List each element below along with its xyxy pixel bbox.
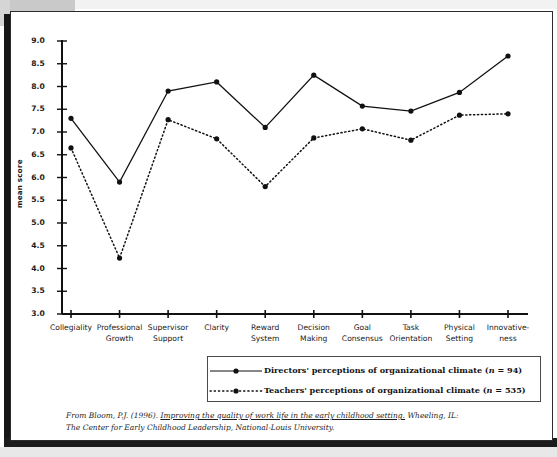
data-point <box>263 184 268 189</box>
figure-root: mean score 3.03.54.04.55.05.56.06.57.07.… <box>0 0 557 457</box>
data-point <box>117 179 122 184</box>
data-point <box>457 113 462 118</box>
legend-label-directors: Directors' perceptions of organizational… <box>264 365 522 375</box>
chart-legend: Directors' perceptions of organizational… <box>207 356 541 402</box>
citation-prefix: From Bloom, P.J. (1996). <box>66 411 160 420</box>
data-point <box>408 108 413 113</box>
series-line-teachers <box>71 114 508 258</box>
citation-suffix: Wheeling, IL: <box>405 411 458 420</box>
data-point <box>505 111 510 116</box>
legend-marker-dotted-icon <box>208 383 264 397</box>
data-point <box>360 126 365 131</box>
citation-title: Improving the quality of work life in th… <box>160 411 405 420</box>
data-point <box>263 125 268 130</box>
legend-marker-solid-icon <box>208 363 264 377</box>
data-point <box>117 255 122 260</box>
scan-bottom-edge <box>0 447 557 457</box>
legend-item-directors: Directors' perceptions of organizational… <box>208 361 542 379</box>
data-point <box>166 117 171 122</box>
data-point <box>214 79 219 84</box>
data-point <box>360 103 365 108</box>
data-point <box>408 138 413 143</box>
data-point <box>457 90 462 95</box>
legend-item-teachers: Teachers' perceptions of organizational … <box>208 381 542 399</box>
data-point <box>214 136 219 141</box>
data-point <box>505 53 510 58</box>
source-citation: From Bloom, P.J. (1996). Improving the q… <box>66 410 536 434</box>
legend-label-teachers: Teachers' perceptions of organizational … <box>264 385 526 395</box>
data-point <box>166 88 171 93</box>
scan-top-edge <box>75 0 557 9</box>
data-point <box>68 116 73 121</box>
figure-card: mean score 3.03.54.04.55.05.56.06.57.07.… <box>10 11 553 441</box>
citation-line2: The Center for Early Childhood Leadershi… <box>66 423 334 432</box>
plot-area: mean score 3.03.54.04.55.05.56.06.57.07.… <box>11 12 554 442</box>
data-point <box>311 135 316 140</box>
data-point <box>311 73 316 78</box>
data-point <box>68 145 73 150</box>
